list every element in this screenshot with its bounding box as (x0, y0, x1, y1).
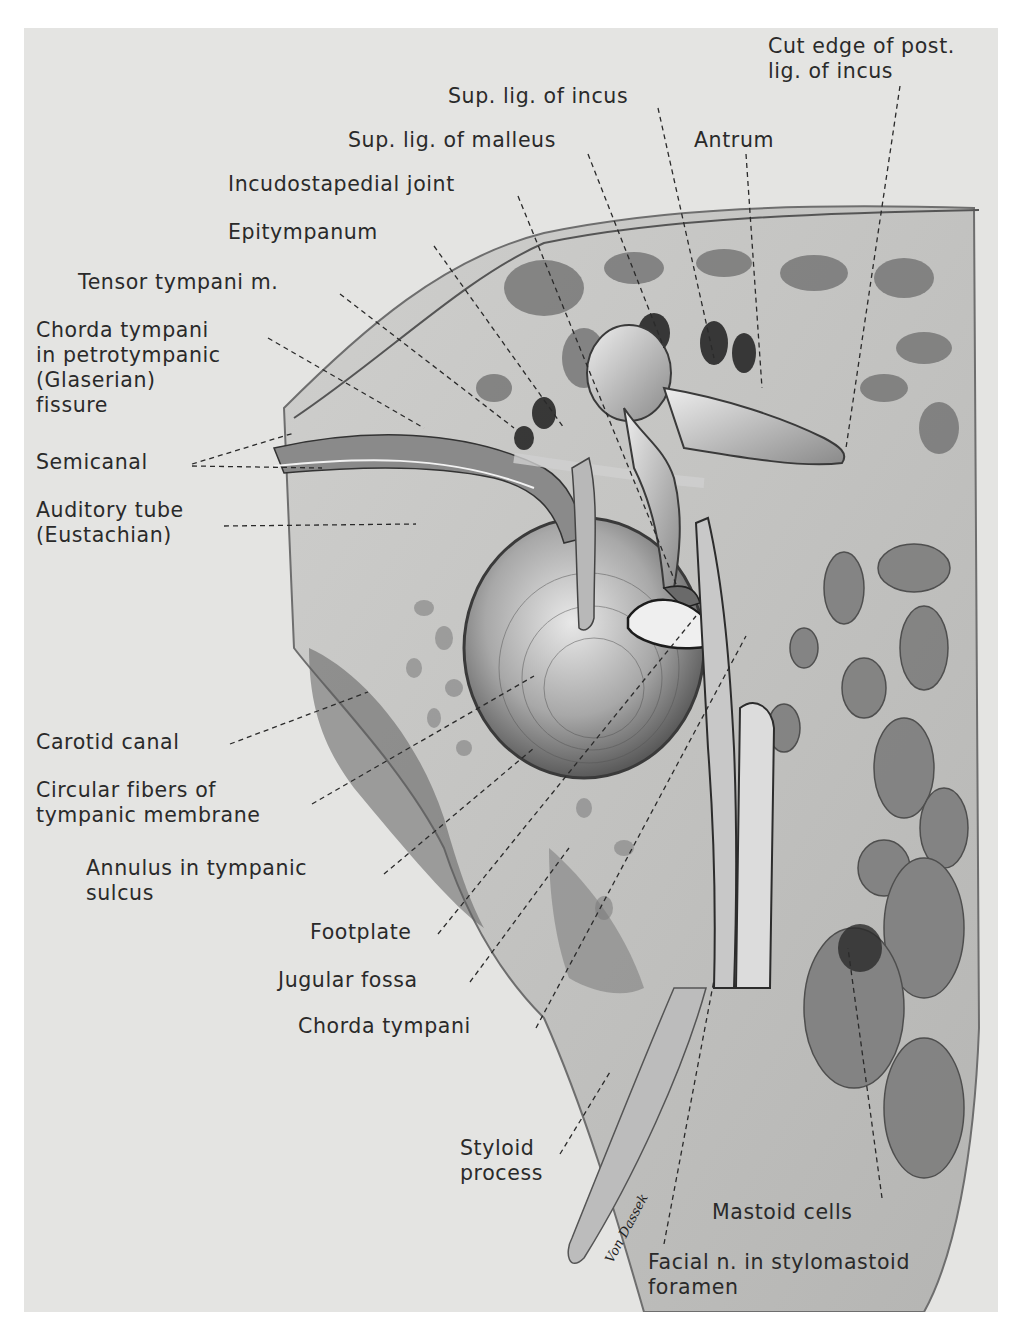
label-tensor-tympani: Tensor tympani m. (78, 270, 278, 295)
label-mastoid-cells: Mastoid cells (712, 1200, 853, 1225)
label-semicanal: Semicanal (36, 450, 148, 475)
label-facial-n-stylomastoid: Facial n. in stylomastoid foramen (648, 1250, 910, 1300)
label-chorda-tympani: Chorda tympani (298, 1014, 471, 1039)
label-incudostapedial-joint: Incudostapedial joint (228, 172, 455, 197)
illustration-plate: Cut edge of post. lig. of incusSup. lig.… (24, 28, 998, 1312)
label-chorda-tympani-petrotympanic: Chorda tympani in petrotympanic (Glaseri… (36, 318, 221, 418)
label-circular-fibers: Circular fibers of tympanic membrane (36, 778, 261, 828)
label-carotid-canal: Carotid canal (36, 730, 180, 755)
label-antrum: Antrum (694, 128, 774, 153)
label-annulus: Annulus in tympanic sulcus (86, 856, 307, 906)
label-sup-lig-malleus: Sup. lig. of malleus (348, 128, 556, 153)
label-jugular-fossa: Jugular fossa (278, 968, 418, 993)
tympanic-cavity-illustration (24, 28, 998, 1312)
label-footplate: Footplate (310, 920, 412, 945)
label-cut-edge-post-lig-incus: Cut edge of post. lig. of incus (768, 34, 955, 84)
label-epitympanum: Epitympanum (228, 220, 378, 245)
label-auditory-tube: Auditory tube (Eustachian) (36, 498, 184, 548)
label-styloid-process: Styloid process (460, 1136, 543, 1186)
label-sup-lig-incus: Sup. lig. of incus (448, 84, 628, 109)
